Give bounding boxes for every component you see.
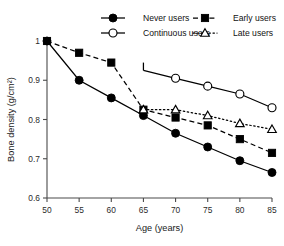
chart-canvas: Never usersEarly usersContinuous usersLa… — [0, 0, 284, 246]
y-tick-label: 0.6 — [28, 193, 40, 203]
series-line — [47, 41, 272, 172]
y-tick-label: 0.9 — [28, 75, 40, 85]
legend-item-never-users[interactable]: Never users — [101, 13, 189, 23]
y-tick-label: 0.8 — [28, 115, 40, 125]
x-tick-label: 50 — [42, 205, 52, 215]
legend-label: Late users — [233, 28, 273, 38]
series-never-users — [47, 41, 272, 172]
data-point — [75, 76, 83, 84]
y-tick-label: 1 — [35, 36, 40, 46]
x-tick-label: 60 — [107, 205, 117, 215]
x-tick-label: 70 — [171, 205, 181, 215]
markers-never-users — [43, 37, 276, 176]
legend-item-early-users[interactable]: Early users — [193, 13, 276, 23]
data-point — [76, 49, 83, 56]
legend-marker-sample — [109, 29, 117, 37]
data-point — [236, 157, 244, 165]
x-axis-title: Age (years) — [136, 223, 184, 233]
data-point — [107, 94, 115, 102]
data-point — [172, 129, 180, 137]
bone-density-line-chart: Never usersEarly usersContinuous usersLa… — [0, 0, 284, 246]
data-point — [204, 122, 211, 129]
data-point — [204, 82, 212, 90]
x-tick-label: 85 — [267, 205, 277, 215]
data-point — [108, 59, 115, 66]
x-tick-label: 80 — [235, 205, 245, 215]
chart-series — [43, 37, 276, 176]
legend-marker-sample — [201, 14, 208, 21]
x-tick-label: 65 — [139, 205, 149, 215]
legend-label: Never users — [143, 13, 189, 23]
data-point — [204, 143, 212, 151]
x-tick-label: 55 — [74, 205, 84, 215]
data-point — [268, 149, 275, 156]
data-point — [236, 136, 243, 143]
legend-label: Early users — [233, 13, 276, 23]
markers-continuous-users — [172, 74, 276, 111]
data-point — [236, 119, 245, 127]
y-tick-label: 0.7 — [28, 154, 40, 164]
data-point — [268, 104, 276, 112]
y-axis-title: Bone density (g/cm²) — [6, 77, 16, 162]
data-point — [172, 114, 179, 121]
legend-item-late-users[interactable]: Late users — [193, 28, 273, 38]
x-tick-label: 75 — [203, 205, 213, 215]
data-point — [172, 74, 180, 82]
legend-marker-sample — [109, 14, 117, 22]
chart-legend: Never usersEarly usersContinuous usersLa… — [101, 13, 276, 38]
data-point — [43, 37, 50, 44]
data-point — [236, 90, 244, 98]
data-point — [268, 168, 276, 176]
